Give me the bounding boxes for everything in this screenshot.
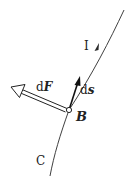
dF-arrowhead-icon (11, 85, 25, 98)
force-diagram: I ds dF B C (0, 0, 130, 184)
current-label: I (84, 39, 89, 53)
dF-label: dF (36, 80, 54, 94)
curve-C-label: C (36, 154, 45, 168)
point-B-marker (66, 107, 71, 112)
ds-label: ds (80, 83, 95, 97)
current-direction-arrow-icon (95, 43, 100, 51)
point-B-label: B (75, 109, 87, 124)
ds-vector (69, 82, 78, 110)
